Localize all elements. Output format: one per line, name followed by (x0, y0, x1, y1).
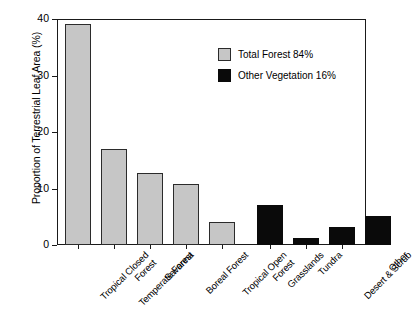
x-tick-mark (150, 245, 151, 249)
y-tick-0: 0 (28, 245, 57, 246)
y-tick-30: 30 (28, 76, 57, 77)
legend-label: Other Vegetation 16% (238, 70, 336, 81)
y-tick-label: 30 (37, 69, 49, 82)
x-tick-mark (306, 245, 307, 249)
y-tick-40: 40 (28, 19, 57, 20)
y-tick-label: 40 (37, 12, 49, 25)
x-tick-mark (342, 245, 343, 249)
y-axis-title: Proportion of Terrestrial Leaf Area (%) (30, 3, 42, 233)
bar-temperate-forest[interactable] (101, 149, 127, 245)
y-tick-label: 0 (43, 238, 49, 251)
legend-item-total-forest: Total Forest 84% (218, 46, 336, 63)
bar-tundra[interactable] (293, 238, 319, 245)
y-tick-mark (52, 245, 57, 246)
legend-swatch-icon (218, 69, 231, 82)
x-tick-mark (222, 245, 223, 249)
legend-item-other-vegetation: Other Vegetation 16% (218, 67, 336, 84)
legend: Total Forest 84% Other Vegetation 16% (218, 46, 336, 88)
y-tick-20: 20 (28, 132, 57, 133)
bar-savanna[interactable] (137, 173, 163, 245)
bar-tropical-open-forest[interactable] (209, 222, 235, 245)
legend-swatch-icon (218, 48, 231, 61)
bar-boreal-forest[interactable] (173, 184, 199, 245)
x-label-line1: Other (386, 249, 410, 273)
x-label-savanna: Savanna (163, 250, 196, 283)
bar-tropical-closed-forest[interactable] (65, 24, 91, 245)
y-tick-label: 10 (37, 182, 49, 195)
y-tick-label: 20 (37, 125, 49, 138)
x-tick-mark (114, 245, 115, 249)
legend-label: Total Forest 84% (238, 49, 313, 60)
bar-desert-and-scrub[interactable] (329, 227, 355, 245)
x-tick-mark (270, 245, 271, 249)
bar-grasslands[interactable] (257, 205, 283, 245)
y-tick-10: 10 (28, 189, 57, 190)
x-label-line1: Savanna (162, 249, 196, 283)
x-tick-mark (78, 245, 79, 249)
bar-other[interactable] (365, 216, 391, 245)
